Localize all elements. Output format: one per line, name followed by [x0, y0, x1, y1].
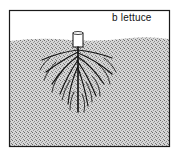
- soil-area: [10, 37, 169, 146]
- panel-label: b lettuce: [112, 12, 152, 23]
- stem: [73, 33, 83, 47]
- lettuce-root-diagram: b lettuce: [0, 0, 175, 153]
